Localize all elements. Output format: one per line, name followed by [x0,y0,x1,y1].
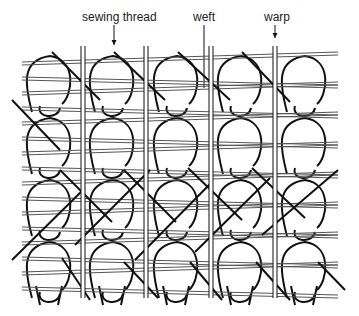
warp-thread-fill [209,46,213,298]
warp-thread-fill [81,46,85,298]
arrowhead-warp [273,33,278,38]
sewing-loop [218,242,262,298]
sewing-loop-link [103,292,123,302]
diagonal-thread [12,188,85,260]
sewing-loop-link [103,106,123,116]
sewing-loop [282,242,326,298]
sewing-loop-link [40,230,60,240]
sewing-loop-link [295,230,315,240]
sewing-loop-link [40,168,60,178]
diagonal-thread [318,262,345,290]
arrowhead-sewing-thread [112,40,117,45]
diagonal-thread [114,52,165,100]
sewing-loop-link [40,292,60,302]
diagonal-thread [60,170,112,222]
warp-thread-fill [144,46,148,298]
warp-thread-fill [273,46,277,298]
sewing-loop [154,118,198,174]
sewing-loop-link [231,292,251,302]
sewing-loop [27,242,71,298]
sewing-loop [27,118,71,174]
diagonal-thread [62,258,90,300]
diagonal-thread [75,170,150,245]
sewing-loop [90,118,134,174]
fabric-structure-diagram [0,0,359,316]
